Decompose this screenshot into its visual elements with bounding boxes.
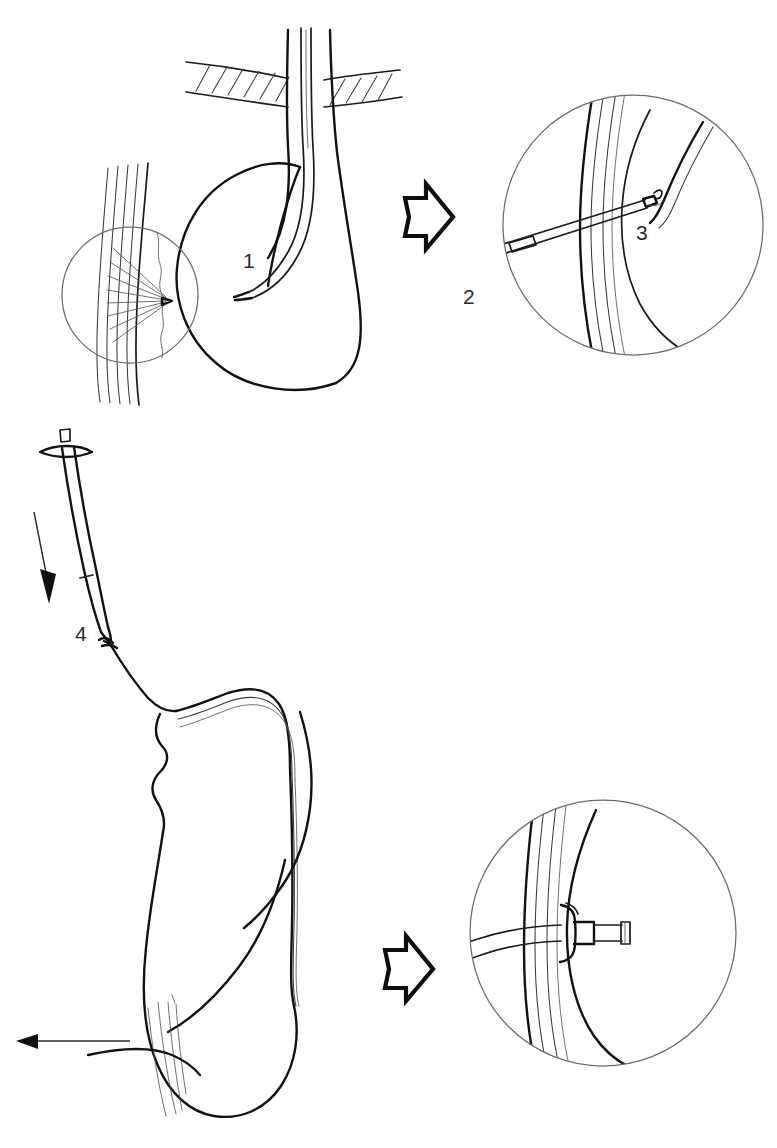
- medical-illustration-figure: 1 2 3 4: [0, 0, 777, 1148]
- label-3: 3: [636, 221, 648, 244]
- label-2: 2: [463, 285, 475, 308]
- label-4: 4: [75, 622, 87, 645]
- figure-canvas: 1 2 3 4: [0, 0, 777, 1148]
- label-1: 1: [243, 249, 255, 272]
